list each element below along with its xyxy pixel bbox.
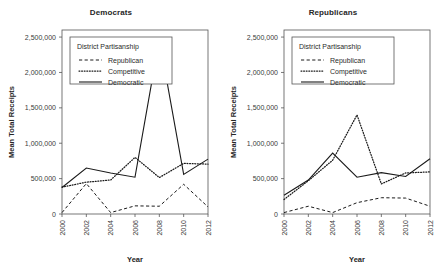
plot-area-republicans: 0500,0001,000,0001,500,0002,000,0002,500… xyxy=(222,0,444,272)
figure-two-panel-line-chart: Democrats 0500,0001,000,0001,500,0002,00… xyxy=(0,0,445,272)
y-tick-label: 0 xyxy=(274,211,278,218)
x-tick-label: 2004 xyxy=(107,220,114,236)
x-tick-label: 2012 xyxy=(205,220,212,236)
x-axis-title: Year xyxy=(127,255,143,264)
x-tick-label: 2000 xyxy=(59,220,66,236)
legend-label-republican: Republican xyxy=(330,57,365,65)
y-tick-label: 1,000,000 xyxy=(25,140,56,147)
y-tick-label: 2,000,000 xyxy=(247,69,278,76)
y-tick-label: 2,500,000 xyxy=(247,34,278,41)
legend-label-democratic: Democratic xyxy=(108,79,144,86)
x-tick-label: 2010 xyxy=(402,220,409,236)
panel-democrats: Democrats 0500,0001,000,0001,500,0002,00… xyxy=(0,0,222,272)
y-axis-title: Mean Total Receipts xyxy=(229,86,238,158)
x-tick-label: 2006 xyxy=(132,220,139,236)
x-axis-title: Year xyxy=(349,255,365,264)
series-line-republican xyxy=(284,198,430,213)
x-tick-label: 2000 xyxy=(281,220,288,236)
plot-area-democrats: 0500,0001,000,0001,500,0002,000,0002,500… xyxy=(0,0,222,272)
y-tick-label: 1,500,000 xyxy=(247,104,278,111)
x-tick-label: 2008 xyxy=(378,220,385,236)
y-tick-label: 2,000,000 xyxy=(25,69,56,76)
x-tick-label: 2002 xyxy=(305,220,312,236)
x-tick-label: 2010 xyxy=(180,220,187,236)
y-tick-label: 1,000,000 xyxy=(247,140,278,147)
legend-label-competitive: Competitive xyxy=(330,68,367,76)
x-tick-label: 2008 xyxy=(156,220,163,236)
x-tick-label: 2004 xyxy=(329,220,336,236)
y-axis-title: Mean Total Receipts xyxy=(7,86,16,158)
legend-label-democratic: Democratic xyxy=(330,79,366,86)
legend-title: District Partisanship xyxy=(77,43,139,51)
y-tick-label: 1,500,000 xyxy=(25,104,56,111)
y-tick-label: 500,000 xyxy=(253,175,278,182)
series-line-republican xyxy=(62,184,208,213)
series-line-democratic xyxy=(284,153,430,195)
x-tick-label: 2012 xyxy=(427,220,434,236)
panel-republicans: Republicans 0500,0001,000,0001,500,0002,… xyxy=(222,0,444,272)
y-tick-label: 2,500,000 xyxy=(25,34,56,41)
legend-label-competitive: Competitive xyxy=(108,68,145,76)
y-tick-label: 500,000 xyxy=(31,175,56,182)
legend-label-republican: Republican xyxy=(108,57,143,65)
x-tick-label: 2006 xyxy=(354,220,361,236)
series-line-competitive xyxy=(284,115,430,200)
legend-title: District Partisanship xyxy=(299,43,361,51)
y-tick-label: 0 xyxy=(52,211,56,218)
x-tick-label: 2002 xyxy=(83,220,90,236)
